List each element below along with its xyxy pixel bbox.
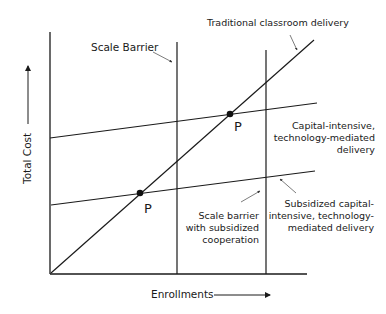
point-lower-marker xyxy=(137,190,144,197)
subsidized-pointer-icon xyxy=(280,179,296,193)
diagram-canvas xyxy=(0,0,386,314)
scale-barrier-pointer-icon xyxy=(153,52,172,62)
subsidized-label-line2: intensive, technology- xyxy=(269,210,374,222)
subsidized-barrier-label-line2: with subsidized xyxy=(186,222,259,234)
capital-intensive-label: Capital-intensive, technology-mediated d… xyxy=(274,120,375,156)
subsidized-delivery-label: Subsidized capital- intensive, technolog… xyxy=(269,198,374,234)
capital-intensive-label-line1: Capital-intensive, xyxy=(274,120,375,132)
subsidized-label-line1: Subsidized capital- xyxy=(269,198,374,210)
traditional-pointer-icon xyxy=(290,35,297,50)
x-axis-label: Enrollments xyxy=(151,288,214,300)
scale-barrier-label: Scale Barrier xyxy=(91,41,158,53)
subsidized-barrier-label-line3: cooperation xyxy=(186,234,259,246)
subsidized-barrier-label: Scale barrier with subsidized cooperatio… xyxy=(186,210,259,246)
subsidized-barrier-label-line1: Scale barrier xyxy=(186,210,259,222)
point-lower-label: P xyxy=(144,201,152,216)
subsidized-label-line3: mediated delivery xyxy=(269,222,374,234)
subsidized-barrier-pointer-icon xyxy=(241,191,260,202)
capital-intensive-label-line3: delivery xyxy=(274,144,375,156)
point-upper-marker xyxy=(227,111,234,118)
capital-intensive-label-line2: technology-mediated xyxy=(274,132,375,144)
traditional-delivery-line xyxy=(51,40,314,273)
point-upper-label: P xyxy=(234,119,242,134)
y-axis-label: Total Cost xyxy=(21,133,33,184)
traditional-delivery-label: Traditional classroom delivery xyxy=(207,17,349,29)
